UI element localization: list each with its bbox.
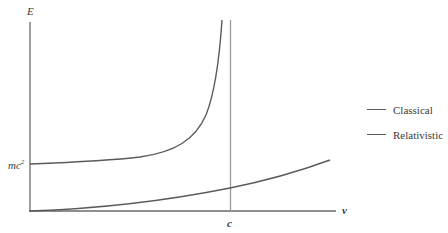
mc2-exponent: 2 (21, 158, 25, 166)
relativistic-curve (30, 20, 222, 164)
mc2-tick-label: mc2 (8, 159, 24, 171)
y-axis-label: E (27, 6, 34, 17)
legend-label-classical: Classical (393, 104, 433, 116)
legend-item-relativistic: Relativistic (367, 122, 443, 147)
x-axis-label: v (342, 205, 347, 216)
legend-swatch-relativistic (367, 134, 386, 135)
legend-swatch-classical (367, 109, 386, 110)
legend-label-relativistic: Relativistic (393, 129, 443, 141)
legend: Classical Relativistic (367, 97, 443, 147)
c-tick-label: c (227, 218, 232, 229)
legend-item-classical: Classical (367, 97, 443, 122)
mc2-base: mc (8, 159, 21, 171)
classical-curve (30, 160, 330, 211)
